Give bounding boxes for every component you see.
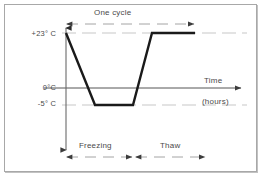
figure-root: +23° C 0°C -5° C One cycle Time (hours) … (0, 0, 262, 177)
freezing-label: Freezing (79, 142, 112, 150)
x-axis-units: (hours) (202, 98, 229, 106)
y-axis-label-zero: 0°C (10, 84, 56, 92)
temperature-curve-line (66, 33, 195, 105)
x-axis-title: Time (204, 77, 222, 85)
y-axis-label-low: -5° C (10, 100, 56, 108)
y-axis-label-high: +23° C (10, 30, 56, 38)
temperature-curve (66, 33, 195, 105)
one-cycle-label: One cycle (94, 9, 131, 17)
thaw-label: Thaw (160, 142, 180, 150)
